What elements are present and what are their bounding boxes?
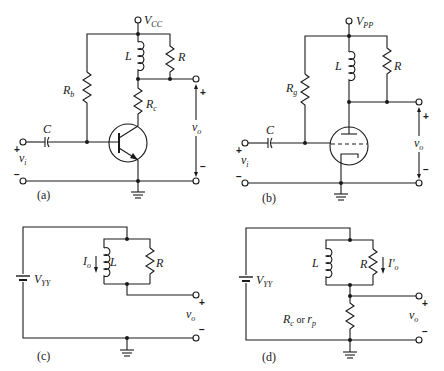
ground-icon	[120, 338, 134, 356]
l-label: L	[124, 49, 132, 63]
caption-c: (c)	[37, 349, 50, 363]
circuit-figure: VCC Rb L R Rc	[0, 0, 444, 371]
ground-icon	[343, 340, 357, 358]
output-terminal-minus	[193, 178, 199, 184]
battery-icon	[16, 276, 30, 280]
svg-text:+: +	[200, 87, 206, 98]
svg-text:−: −	[200, 161, 206, 172]
input-terminal-minus	[242, 180, 248, 186]
vi-label: vi	[19, 151, 27, 167]
grid-resistor-rg	[301, 74, 309, 143]
caption-d: (d)	[262, 350, 276, 364]
svg-text:−: −	[199, 324, 205, 335]
triode-tube	[330, 102, 368, 181]
l-label: L	[109, 255, 117, 269]
vyy-label: VYY	[34, 272, 52, 288]
resistor-r	[383, 44, 391, 102]
c-label: C	[43, 122, 52, 136]
caption-a: (a)	[37, 188, 50, 202]
bias-resistor-rb	[83, 72, 91, 142]
svg-text:−: −	[236, 171, 242, 182]
l-label: L	[311, 256, 319, 270]
vcc-label: VCC	[144, 13, 163, 29]
rc-label: Rc	[145, 97, 157, 113]
rb-label: Rb	[62, 83, 74, 99]
battery-icon	[239, 277, 253, 281]
output-terminal-minus	[416, 180, 422, 186]
series-resistor-rc-rp	[346, 296, 354, 340]
output-terminal-minus	[416, 337, 422, 343]
input-terminal-plus	[20, 139, 26, 145]
load-resistor-rc	[134, 79, 142, 126]
svg-text:−: −	[423, 164, 429, 175]
r-label: R	[359, 257, 368, 271]
npn-transistor	[109, 124, 147, 181]
vi-label: vi	[241, 153, 249, 169]
panel-d: VYY L R I'o Rc or rp + vo − (d)	[239, 228, 428, 364]
output-terminal-minus	[193, 335, 199, 341]
rg-label: Rg	[285, 81, 297, 97]
vpp-terminal	[346, 18, 352, 24]
svg-text:−: −	[422, 326, 428, 337]
svg-text:+: +	[422, 298, 428, 309]
resistor-r	[146, 248, 154, 284]
input-terminal-minus	[20, 178, 26, 184]
current-arrow-icon	[94, 267, 98, 273]
ground-icon	[131, 181, 145, 198]
vo-label: vo	[409, 308, 418, 324]
vcc-terminal	[135, 17, 141, 23]
output-terminal-plus	[416, 99, 422, 105]
inductor-l	[326, 248, 332, 285]
inductor-l	[349, 52, 355, 103]
ground-icon	[334, 183, 348, 200]
current-arrow-icon	[381, 268, 385, 274]
io-prime-label: I'o	[387, 256, 399, 272]
vyy-label: VYY	[256, 273, 274, 289]
r-label: R	[155, 256, 164, 270]
caption-b: (b)	[262, 191, 276, 205]
vpp-label: VPP	[356, 14, 373, 30]
panel-c: VYY L R Io + vo − (c)	[16, 227, 205, 363]
svg-text:+: +	[199, 297, 205, 308]
r-label: R	[393, 59, 402, 73]
panel-a: VCC Rb L R Rc	[14, 13, 206, 202]
output-terminal-plus	[193, 76, 199, 82]
c-label: C	[266, 123, 275, 137]
svg-text:+: +	[423, 111, 429, 122]
inductor-l	[138, 42, 144, 80]
r-label: R	[177, 50, 186, 64]
rc-or-rp-label: Rc or rp	[282, 312, 316, 328]
resistor-r	[369, 249, 377, 285]
l-label: L	[334, 59, 342, 73]
input-terminal-plus	[242, 140, 248, 146]
io-label: Io	[82, 254, 91, 270]
resistor-r	[166, 42, 174, 79]
svg-text:−: −	[14, 169, 20, 180]
vo-label: vo	[186, 307, 195, 323]
panel-b: VPP Rg L R C + vi −	[236, 14, 429, 205]
